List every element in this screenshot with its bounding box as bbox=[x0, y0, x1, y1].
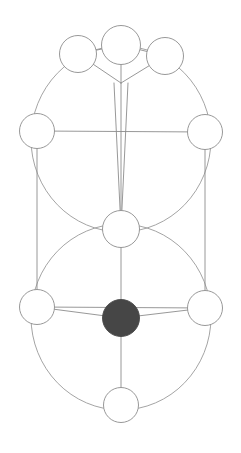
node-bottom[interactable] bbox=[104, 388, 139, 423]
node-mid-right[interactable] bbox=[188, 115, 223, 150]
edge-apex-center-left bbox=[114, 83, 120, 211]
edge-topleft-apex bbox=[93, 64, 121, 83]
node-lower-right[interactable] bbox=[188, 291, 223, 326]
edge-midleft-midright bbox=[54, 131, 187, 132]
diagram-canvas bbox=[0, 0, 241, 453]
node-top-center[interactable] bbox=[102, 26, 141, 65]
node-top-right[interactable] bbox=[147, 38, 184, 75]
tree-of-life-diagram bbox=[0, 0, 241, 453]
node-center[interactable] bbox=[103, 211, 140, 248]
node-mid-left[interactable] bbox=[20, 114, 55, 149]
edge-topright-apex bbox=[121, 66, 149, 83]
node-top-left[interactable] bbox=[60, 36, 97, 73]
edge-lowerright-hub bbox=[139, 310, 187, 316]
edge-lowerleft-hub bbox=[54, 309, 102, 315]
node-hub-filled[interactable] bbox=[103, 300, 140, 337]
edge-apex-center-right bbox=[122, 83, 128, 211]
node-lower-left[interactable] bbox=[20, 290, 55, 325]
